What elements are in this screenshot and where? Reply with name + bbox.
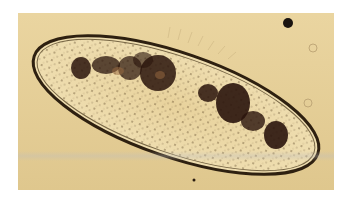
micrograph-photo bbox=[18, 13, 334, 190]
paramecium-illustration bbox=[18, 13, 334, 190]
cell-body bbox=[18, 13, 334, 190]
bubble bbox=[304, 99, 312, 107]
scan-band bbox=[18, 151, 334, 161]
debris-dot bbox=[193, 179, 196, 182]
debris-dot bbox=[283, 18, 293, 28]
bubble bbox=[309, 44, 317, 52]
